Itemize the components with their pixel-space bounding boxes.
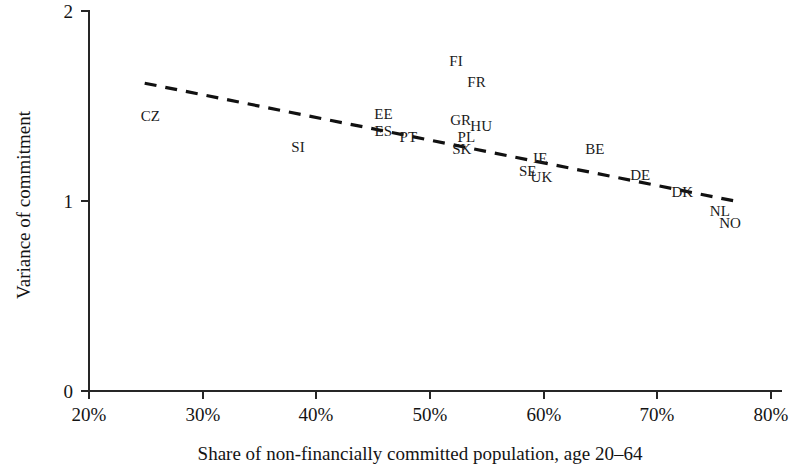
data-point-label-si: SI xyxy=(291,139,305,155)
data-point-label-pt: PT xyxy=(400,129,418,145)
x-axis-title: Share of non-financially committed popul… xyxy=(198,443,643,464)
x-tick-label-40: 40% xyxy=(299,404,334,425)
y-axis: 2 1 0 Variance of commitment xyxy=(13,1,89,402)
data-point-label-gr: GR xyxy=(450,112,471,128)
data-point-label-be: BE xyxy=(585,141,604,157)
data-point-label-ie: IE xyxy=(533,150,547,166)
data-point-label-no: NO xyxy=(719,215,741,231)
data-point-label-es: ES xyxy=(375,123,393,139)
x-axis: 20% 30% 40% 50% 60% 70% 80% Share of non… xyxy=(72,391,789,464)
x-tick-label-80: 80% xyxy=(754,404,789,425)
data-point-label-ee: EE xyxy=(374,106,393,122)
x-tick-label-30: 30% xyxy=(186,404,221,425)
data-point-label-hu: HU xyxy=(470,118,492,134)
data-point-label-fi: FI xyxy=(449,53,463,69)
y-tick-label-0: 0 xyxy=(64,381,74,402)
y-tick-label-2: 2 xyxy=(64,1,74,22)
x-tick-label-70: 70% xyxy=(640,404,675,425)
y-axis-title: Variance of commitment xyxy=(13,110,34,299)
y-tick-label-1: 1 xyxy=(64,191,74,212)
data-point-label-de: DE xyxy=(630,167,650,183)
data-point-label-dk: DK xyxy=(671,184,693,200)
scatter-chart: 2 1 0 Variance of commitment 20% 30% 40%… xyxy=(0,0,808,475)
data-point-label-fr: FR xyxy=(467,74,486,90)
x-tick-label-50: 50% xyxy=(413,404,448,425)
chart-canvas: 2 1 0 Variance of commitment 20% 30% 40%… xyxy=(0,0,808,475)
trend-line xyxy=(145,83,735,201)
x-tick-label-20: 20% xyxy=(72,404,107,425)
x-tick-label-60: 60% xyxy=(527,404,562,425)
data-point-label-uk: UK xyxy=(530,169,552,185)
data-point-label-cz: CZ xyxy=(141,108,160,124)
